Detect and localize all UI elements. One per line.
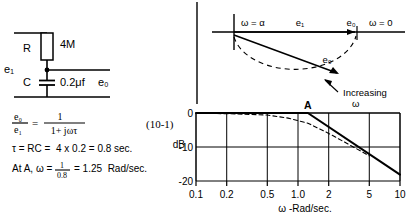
e0-axis-label: e₀ xyxy=(346,17,355,28)
bode-x-axis-label: ω -Rad/sec. xyxy=(278,203,331,214)
bode-x-tick-label: 0.5 xyxy=(260,189,274,200)
tau-equation: τ = RC = 4 x 0.2 = 0.8 sec. xyxy=(12,143,132,154)
e0-vector-label: e₀ xyxy=(322,54,331,65)
equations-block: e₀ e₁ = 1 1+ jωτ (10-1) τ = RC = 4 x 0.2… xyxy=(12,111,174,180)
bode-x-tick-label: 1.0 xyxy=(291,189,305,200)
bode-x-tick-label: 0.2 xyxy=(220,189,234,200)
transfer-numerator-right: 1 xyxy=(58,111,63,122)
bode-annotation-A: A xyxy=(304,99,312,111)
bode-x-tick-label: 2 xyxy=(326,189,332,200)
bode-gridlines xyxy=(196,113,400,186)
bode-x-tick-label: 0.1 xyxy=(189,189,203,200)
omega-zero-label: ω = 0 xyxy=(369,17,393,28)
increasing-label: Increasing xyxy=(343,87,387,98)
circuit-diagram: R 4M C 0.2μf e₁ e₀ xyxy=(4,33,110,97)
increasing-omega-label: ω xyxy=(352,98,360,109)
equals-sign-1: = xyxy=(32,117,38,129)
capacitor-label: C xyxy=(23,76,31,88)
bode-x-tick-labels: 0.10.20.51.02510 xyxy=(189,189,406,200)
omega-infinity-label: ω = α xyxy=(241,17,265,28)
capacitor-value-label: 0.2μf xyxy=(60,76,86,88)
polar-plot: ω = α ω = 0 e₁ e₀ e₀ Increasing ω xyxy=(212,14,405,109)
resistor-value-label: 4M xyxy=(60,38,75,50)
resistor-symbol xyxy=(41,33,53,60)
bode-y-tick-label: -20 xyxy=(179,176,194,187)
omega-equation-prefix: At A, ω = xyxy=(12,163,52,174)
bode-y-axis-label: dB xyxy=(173,139,186,150)
omega-fraction-numerator: 1 xyxy=(60,161,64,170)
figure-canvas: R 4M C 0.2μf e₁ e₀ e₀ e₁ = 1 1+ jωτ (10-… xyxy=(0,0,410,222)
equation-number: (10-1) xyxy=(146,118,174,131)
circuit-output-label: e₀ xyxy=(98,76,109,88)
bode-x-tick-label: 10 xyxy=(394,189,406,200)
circuit-input-label: e₁ xyxy=(4,63,14,75)
transfer-numerator-left: e₀ xyxy=(14,111,22,122)
e1-vector-arrowhead xyxy=(347,29,355,35)
resistor-label: R xyxy=(23,42,31,54)
bode-y-tick-label: 0 xyxy=(187,108,193,119)
omega-equation-suffix: = 1.25 Rad/sec. xyxy=(74,163,147,174)
figure-root: R 4M C 0.2μf e₁ e₀ e₀ e₁ = 1 1+ jωτ (10-… xyxy=(0,0,410,222)
transfer-denominator-right: 1+ jωτ xyxy=(51,125,78,136)
omega-fraction-denominator: 0.8 xyxy=(57,171,67,180)
bode-annotations: A xyxy=(304,99,312,111)
bode-plot: 0.10.20.51.02510 0-10-20 A dB ω -Rad/sec… xyxy=(173,99,406,214)
bode-series-actual-response xyxy=(196,113,369,156)
bode-x-tick-label: 5 xyxy=(367,189,373,200)
transfer-denominator-left: e₁ xyxy=(14,124,22,135)
e1-label: e₁ xyxy=(296,17,305,28)
